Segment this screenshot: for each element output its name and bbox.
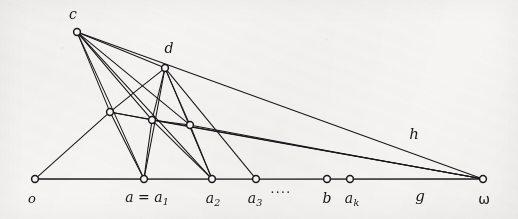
free-label-h: h: [409, 127, 419, 142]
node-label-a2: a2: [206, 191, 221, 207]
graph-edge: [153, 72, 164, 117]
graph-node-a3: [253, 176, 260, 183]
graph-node-m2: [149, 117, 156, 124]
node-label-w: ω: [478, 192, 490, 206]
graph-edge: [145, 124, 152, 176]
graph-node-m1: [107, 109, 114, 116]
graph-edge: [112, 115, 143, 175]
graph-edge: [194, 126, 480, 179]
graph-node-a1: [141, 176, 148, 183]
graph-edge: [38, 114, 107, 176]
nodes-layer: [32, 29, 487, 183]
edges-layer: [38, 33, 480, 179]
node-label-d: d: [165, 41, 174, 55]
graph-node-a2: [209, 176, 216, 183]
node-label-a1: a = a1: [125, 190, 169, 206]
free-label-dots: ····: [271, 187, 292, 199]
graph-node-ak: [347, 176, 354, 183]
graph-node-w: [480, 176, 487, 183]
node-label-b: b: [323, 191, 332, 205]
graph-node-c: [74, 29, 81, 36]
graph-node-m3: [187, 122, 194, 129]
graph-edge: [79, 35, 143, 175]
diagram-canvas: [0, 0, 518, 219]
graph-node-d: [162, 65, 169, 72]
graph-edge: [155, 123, 210, 177]
node-label-a3: a3: [248, 191, 263, 207]
node-label-o: o: [28, 192, 36, 205]
graph-edge: [78, 35, 108, 108]
diagram-figure: cdoa = a1a2a3bakωhg····: [0, 0, 518, 219]
graph-edge: [80, 33, 479, 177]
node-label-ak: ak: [345, 191, 359, 207]
node-label-c: c: [69, 7, 77, 21]
graph-node-o: [32, 176, 39, 183]
free-label-g: g: [415, 189, 425, 204]
graph-node-b: [324, 176, 331, 183]
